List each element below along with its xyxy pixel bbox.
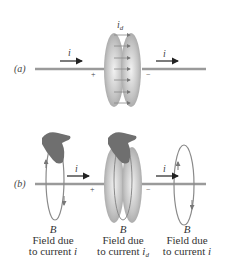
panel-a [35,33,206,107]
current-label-left-a: i [68,47,71,58]
caption-left: B Field due to current i [17,224,89,257]
right-hand-icon-left [42,132,71,163]
minus-sign-a: − [146,70,151,79]
minus-sign-b: − [146,185,151,194]
current-label-right-a: i [163,48,166,59]
current-label-right-b: i [163,163,166,174]
plus-sign-a: + [91,70,96,79]
capacitor-plate-right-a [121,33,141,107]
capacitor-diagram [0,0,229,257]
caption-right: B Field due to current i [151,224,223,257]
current-label-left-b: i [75,163,78,174]
panel-b-label: (b) [14,178,26,189]
panel-b [35,132,206,225]
plus-sign-b: + [90,185,95,194]
caption-middle: B Field due to current id [87,224,159,257]
panel-a-label: (a) [14,63,26,74]
displacement-current-label: id [117,19,123,32]
